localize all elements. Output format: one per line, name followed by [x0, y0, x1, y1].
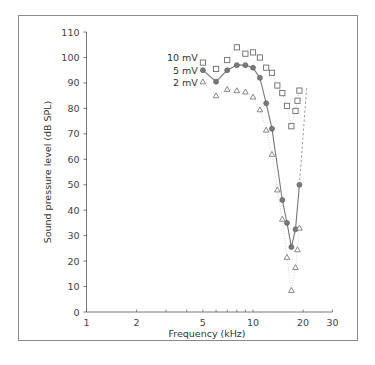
square-marker: [257, 55, 262, 60]
triangle-marker: [224, 87, 230, 92]
axes: 0102030405060708090100110125102030: [61, 27, 338, 328]
y-tick-label: 60: [67, 154, 79, 165]
y-tick-label: 50: [67, 179, 79, 190]
series-10-mv: [200, 45, 302, 129]
circle-marker: [280, 198, 285, 203]
legend-label: 10 mV: [167, 52, 198, 63]
triangle-marker: [293, 265, 299, 270]
triangle-marker: [284, 254, 290, 259]
triangle-marker: [275, 187, 281, 192]
y-tick-label: 30: [67, 230, 79, 241]
series-2-mv: [200, 79, 302, 293]
circle-marker: [264, 101, 269, 106]
y-tick-label: 70: [67, 128, 79, 139]
circle-marker: [251, 65, 256, 70]
y-tick-label: 0: [73, 307, 79, 318]
y-tick-label: 90: [67, 77, 79, 88]
legend: 10 mV5 mV2 mV: [167, 52, 198, 88]
square-marker: [293, 108, 298, 113]
y-tick-label: 110: [61, 27, 79, 38]
square-marker: [243, 51, 248, 56]
x-tick-label: 10: [247, 317, 259, 328]
circle-marker: [214, 79, 219, 84]
square-marker: [280, 91, 285, 96]
x-axis-label: Frequency (kHz): [168, 328, 245, 339]
x-tick-label: 1: [83, 317, 89, 328]
chart: 0102030405060708090100110125102030 10 mV…: [0, 0, 375, 350]
x-tick-label: 5: [200, 317, 206, 328]
legend-label: 5 mV: [173, 65, 198, 76]
x-tick-label: 20: [297, 317, 309, 328]
square-marker: [264, 65, 269, 70]
legend-label: 2 mV: [173, 77, 198, 88]
y-axis-label: Sound pressure level (dB SPL): [42, 101, 53, 244]
triangle-marker: [200, 79, 206, 84]
square-marker: [225, 57, 230, 62]
series-layer: [200, 45, 307, 293]
x-tick-label: 2: [134, 317, 140, 328]
circle-marker: [234, 63, 239, 68]
triangle-marker: [213, 93, 219, 98]
triangle-marker: [280, 216, 286, 221]
square-marker: [269, 70, 274, 75]
square-marker: [284, 103, 289, 108]
figure-caption-cropped: [16, 351, 375, 365]
y-tick-label: 20: [67, 256, 79, 267]
square-marker: [289, 124, 294, 129]
triangle-marker: [289, 288, 295, 293]
y-tick-label: 10: [67, 281, 79, 292]
square-marker: [213, 66, 218, 71]
circle-marker: [269, 126, 274, 131]
square-marker: [250, 50, 255, 55]
circle-marker: [225, 68, 230, 73]
square-marker: [275, 83, 280, 88]
y-tick-label: 40: [67, 205, 79, 216]
triangle-marker: [250, 94, 256, 99]
circle-marker: [289, 245, 294, 250]
triangle-marker: [257, 107, 263, 112]
square-marker: [234, 45, 239, 50]
square-marker: [297, 88, 302, 93]
square-marker: [295, 98, 300, 103]
triangle-marker: [234, 88, 240, 93]
triangle-marker: [269, 151, 275, 156]
triangle-marker: [263, 127, 269, 132]
y-tick-label: 100: [61, 52, 79, 63]
x-tick-label: 30: [326, 317, 338, 328]
triangle-marker: [295, 247, 301, 252]
circle-marker: [257, 75, 262, 80]
y-tick-label: 80: [67, 103, 79, 114]
circle-marker: [243, 63, 248, 68]
circle-marker: [200, 68, 205, 73]
square-marker: [200, 60, 205, 65]
series-5-mv: [200, 63, 302, 250]
